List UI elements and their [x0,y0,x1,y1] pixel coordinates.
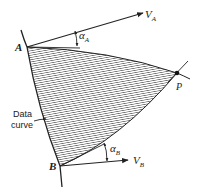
vector-va-label: VA [145,8,157,23]
point-p-dot [175,71,180,76]
point-p-label: P [175,81,182,92]
vector-vb-label: VB [133,154,145,169]
angle-alpha-a-label: αA [79,29,90,44]
characteristic-diagram: A B P VA VB αA αB Data curve [0,0,201,192]
angle-alpha-b-arrow [104,143,107,161]
data-curve-label-line1: Data [13,109,32,119]
hatched-region [27,47,177,166]
point-b-label: B [48,160,56,172]
data-curve-label-line2: curve [11,120,33,130]
point-a-label: A [14,41,22,53]
angle-alpha-b-label: αB [110,142,121,157]
angle-alpha-a-arrow [75,31,77,46]
